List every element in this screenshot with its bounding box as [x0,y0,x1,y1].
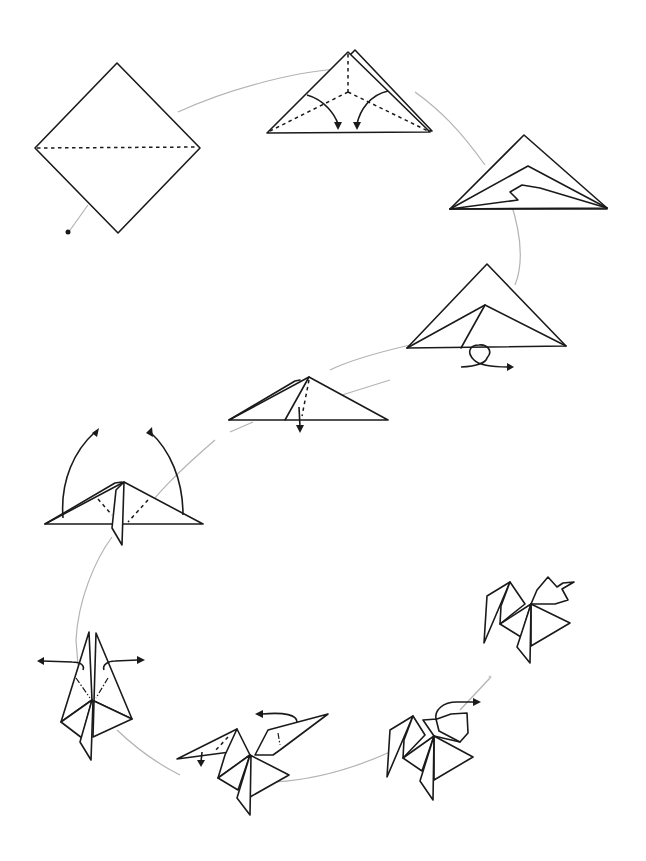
step-8-reverse-folds [177,710,328,815]
origami-diagram-canvas [0,0,646,861]
step-5-flap-down [229,377,388,433]
step-3-squash [450,135,607,209]
step-9-head-fold [387,698,481,800]
step-1-square [35,63,200,235]
step-4-turn-over [407,264,566,371]
step-6-lift-points [45,427,203,545]
step-2-triangle [267,50,432,133]
step-10-finished [484,577,574,663]
